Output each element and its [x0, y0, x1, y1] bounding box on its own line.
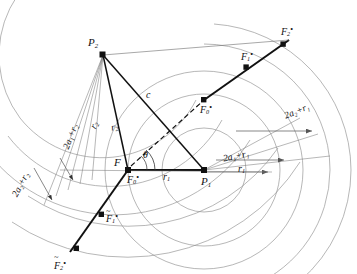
label-c: c	[146, 90, 150, 100]
label-r1: r1	[163, 172, 170, 183]
label-r1-outer: r1	[238, 164, 245, 175]
diagram-canvas: P2 P1 F F0• F0• F1• F2• F1• F2• θ c r1 r…	[0, 0, 357, 274]
label-f2-star-upper: F2•	[281, 26, 293, 38]
label-f2-star-tilde: F2•	[54, 260, 357, 272]
label-f0-star-upper: F0•	[200, 104, 212, 116]
label-f0-star: F0•	[127, 174, 139, 186]
label-f1-star-tilde: F1•	[106, 213, 357, 225]
label-p1: P1	[201, 176, 211, 188]
label-f: F	[114, 157, 121, 168]
label-p2: P2	[88, 37, 98, 49]
dashed-axis	[131, 100, 204, 166]
arc-family-p1	[105, 24, 351, 274]
label-f1-star-upper: F1•	[241, 51, 253, 63]
diagram-vector	[0, 0, 357, 274]
label-theta: θ	[143, 150, 148, 160]
